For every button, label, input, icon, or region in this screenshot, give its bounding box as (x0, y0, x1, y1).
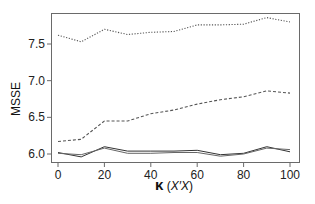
y-tick-label: 6.5 (28, 110, 45, 124)
matrix-term: X′X (170, 179, 190, 193)
y-tick-label: 6.0 (28, 147, 45, 161)
y-tick-label: 7.5 (28, 37, 45, 51)
y-axis-title: MSSE (9, 82, 23, 116)
line-chart: 6.06.57.07.5 020406080100 MSSE κ (X′X) (0, 0, 315, 204)
series-line-1 (58, 18, 290, 42)
y-tick-label: 7.0 (28, 74, 45, 88)
series-line-2 (58, 91, 290, 142)
x-tick-label: 20 (98, 168, 112, 182)
plot-frame (52, 14, 300, 163)
y-axis: 6.06.57.07.5 (28, 37, 51, 161)
x-tick-label: 0 (55, 168, 62, 182)
x-axis-title: κ (X′X) (155, 176, 193, 193)
x-tick-label: 80 (237, 168, 251, 182)
series-group (58, 18, 290, 157)
x-tick-label: 100 (280, 168, 300, 182)
